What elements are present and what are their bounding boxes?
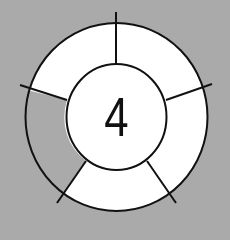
center-number: 4 <box>77 64 156 170</box>
